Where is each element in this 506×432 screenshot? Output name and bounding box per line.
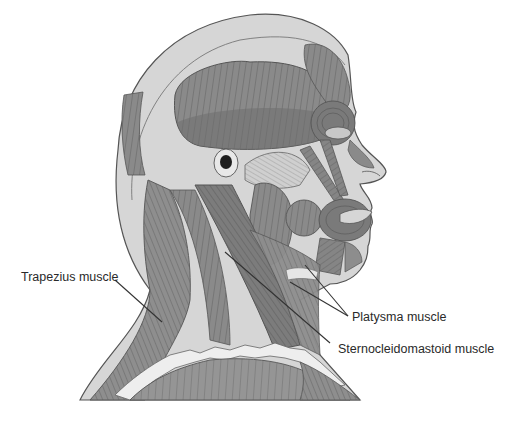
trapezius-label: Trapezius muscle xyxy=(21,271,119,284)
buccinator-muscle xyxy=(286,200,322,236)
platysma-label: Platysma muscle xyxy=(352,311,446,324)
ear-canal xyxy=(220,155,232,169)
head-neck-muscle-illustration xyxy=(0,0,506,432)
eye xyxy=(325,127,351,139)
sternocleidomastoid-label: Sternocleidomastoid muscle xyxy=(338,343,494,356)
